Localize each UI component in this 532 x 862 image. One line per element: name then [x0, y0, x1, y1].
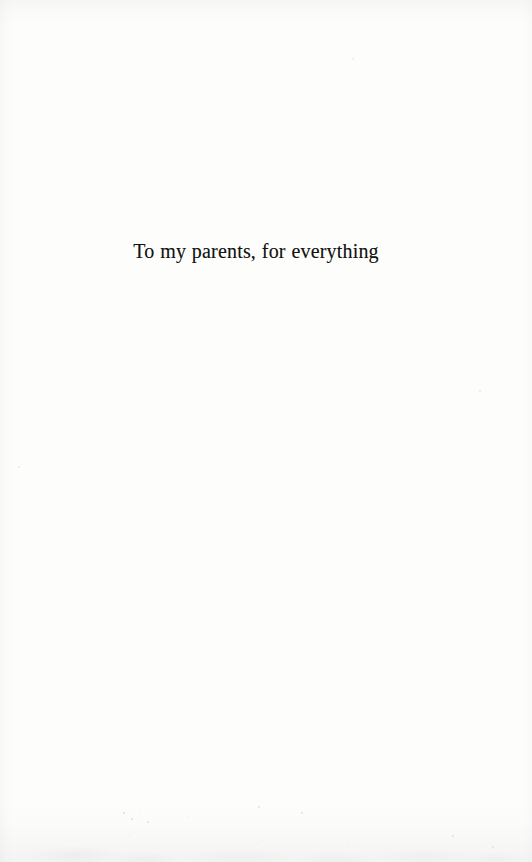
scan-speck — [123, 812, 125, 814]
scan-mottle-artifact — [0, 814, 532, 862]
dedication-page: To my parents, for everything — [0, 0, 532, 862]
scan-speck — [262, 840, 263, 841]
scan-speck — [443, 372, 444, 373]
scan-speck — [24, 614, 25, 615]
scan-speck — [492, 846, 494, 848]
scan-edge-top-artifact — [0, 0, 532, 26]
scan-speck — [18, 466, 20, 468]
scan-speck — [188, 816, 189, 817]
scan-edge-bottom-artifact — [0, 800, 532, 862]
scan-speck — [30, 288, 31, 289]
scan-speck — [452, 835, 454, 837]
scan-speck — [489, 510, 490, 511]
scan-speck — [147, 821, 149, 823]
scan-speck — [348, 843, 349, 844]
scan-speck — [301, 812, 303, 814]
dedication-text: To my parents, for everything — [133, 238, 379, 264]
scan-speck — [489, 818, 490, 819]
scan-speck — [479, 390, 481, 392]
scan-speck — [96, 90, 97, 91]
scan-speck — [139, 810, 140, 811]
scan-edge-right-artifact — [522, 0, 532, 862]
dedication-block: To my parents, for everything — [0, 238, 532, 264]
scan-speck — [201, 838, 202, 839]
scan-speck — [434, 828, 435, 829]
paper-background — [0, 0, 532, 862]
scan-speck — [129, 835, 130, 836]
scan-speck — [352, 58, 354, 60]
scan-edge-left-artifact — [0, 0, 14, 862]
scan-speck — [258, 806, 260, 808]
scan-speck — [131, 818, 133, 820]
